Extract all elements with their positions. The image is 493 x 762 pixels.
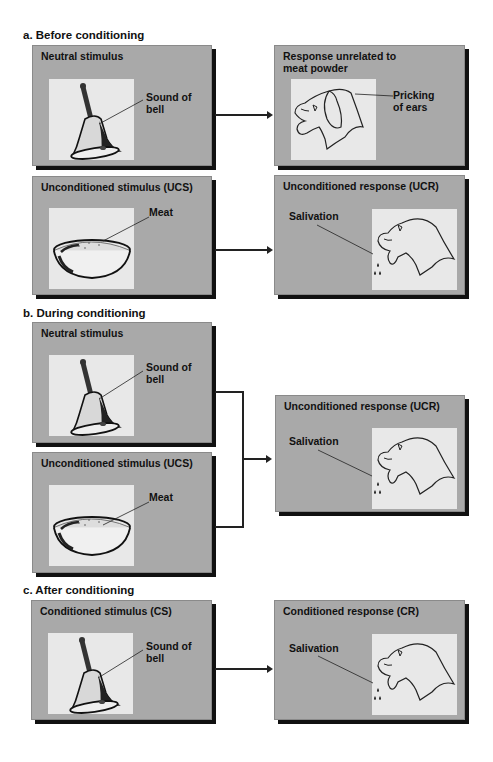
box-title: Unconditioned response (UCR) bbox=[284, 400, 440, 412]
salivation-label: Salivation bbox=[289, 211, 339, 223]
ucs-box: Unconditioned stimulus (UCS) Meat bbox=[32, 452, 212, 573]
salivation-label: Salivation bbox=[289, 643, 339, 655]
salivating-dog-icon bbox=[372, 209, 457, 290]
box-title: Conditioned stimulus (CS) bbox=[40, 605, 172, 617]
box-title: Unconditioned stimulus (UCS) bbox=[41, 181, 193, 193]
section-b-title: b. During conditioning bbox=[23, 307, 146, 319]
bell-icon bbox=[49, 79, 134, 160]
box-title: Neutral stimulus bbox=[41, 327, 123, 339]
ucr-box: Unconditioned response (UCR) Salivation bbox=[274, 175, 465, 295]
box-title: Unconditioned stimulus (UCS) bbox=[41, 457, 193, 469]
box-title: Response unrelated tomeat powder bbox=[283, 50, 396, 74]
neutral-stimulus-box: Neutral stimulus Sound ofbell bbox=[32, 45, 212, 166]
unrelated-response-box: Response unrelated tomeat powder Prickin… bbox=[274, 45, 465, 166]
stimulus-label: Sound ofbell bbox=[146, 362, 192, 385]
response-label: Prickingof ears bbox=[393, 90, 434, 113]
cs-box: Conditioned stimulus (CS) Sound ofbell bbox=[31, 600, 212, 720]
meat-label: Meat bbox=[149, 207, 173, 219]
salivation-label: Salivation bbox=[289, 436, 339, 448]
dog-head-icon bbox=[291, 79, 376, 160]
box-title: Neutral stimulus bbox=[41, 50, 123, 62]
stimulus-label: Sound ofbell bbox=[146, 641, 192, 664]
bell-icon bbox=[49, 355, 134, 436]
neutral-stimulus-box: Neutral stimulus Sound ofbell bbox=[32, 322, 212, 443]
bell-icon bbox=[48, 633, 133, 714]
salivating-dog-icon bbox=[372, 634, 457, 715]
salivating-dog-icon bbox=[372, 428, 457, 509]
box-title: Unconditioned response (UCR) bbox=[283, 180, 439, 192]
stimulus-label: Sound ofbell bbox=[146, 92, 192, 115]
cr-box: Conditioned response (CR) Salivation bbox=[274, 600, 465, 720]
box-title: Conditioned response (CR) bbox=[283, 605, 419, 617]
meat-label: Meat bbox=[149, 492, 173, 504]
ucr-box: Unconditioned response (UCR) Salivation bbox=[275, 395, 465, 512]
section-c-title: c. After conditioning bbox=[23, 584, 134, 596]
meat-bowl-icon bbox=[49, 485, 134, 566]
section-a-title: a. Before conditioning bbox=[23, 29, 144, 41]
ucs-box: Unconditioned stimulus (UCS) Meat bbox=[32, 176, 212, 295]
meat-bowl-icon bbox=[49, 208, 134, 289]
